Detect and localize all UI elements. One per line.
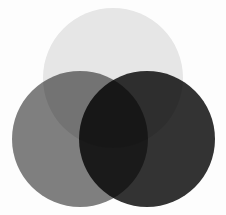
venn-canvas	[0, 0, 226, 215]
venn-circle-right[interactable]	[79, 71, 215, 207]
venn-diagram-figure	[0, 0, 226, 215]
